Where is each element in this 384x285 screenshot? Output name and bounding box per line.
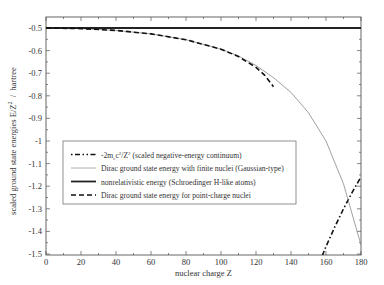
x-tick-label: 20	[77, 257, 86, 267]
y-tick-label: -1.2	[29, 181, 42, 191]
x-tick-label: 140	[285, 257, 298, 267]
series-continuum	[321, 177, 361, 260]
y-axis-label: scaled ground state energies E/Z2 / hart…	[7, 67, 18, 215]
x-tick-label: 180	[355, 257, 368, 267]
y-tick-label: -1.5	[29, 249, 42, 259]
x-tick-label: 120	[250, 257, 263, 267]
y-tick-label: -1.3	[29, 204, 42, 214]
y-tick-label: -1	[35, 136, 42, 146]
x-tick-label: 80	[182, 257, 191, 267]
series-finite-nuclei	[46, 28, 361, 245]
energy-chart: 020406080100120140160180 -0.5-0.6-0.7-0.…	[0, 0, 384, 285]
y-tick-label: -0.7	[29, 68, 42, 78]
x-tick-label: 160	[320, 257, 333, 267]
y-tick-label: -0.9	[29, 113, 42, 123]
x-tick-label: 100	[215, 257, 228, 267]
y-tick-label: -1.4	[29, 226, 43, 236]
legend-label-nonrel: nonrelativistic energy (Schroedinger H-l…	[101, 178, 256, 187]
series-point-charge	[46, 28, 274, 87]
legend-label-continuum: -2mec2/Z2 (scaled negative-energy contin…	[101, 151, 242, 161]
x-tick-label: 40	[112, 257, 121, 267]
y-tick-label: -0.6	[29, 46, 42, 56]
legend: -2mec2/Z2 (scaled negative-energy contin…	[63, 141, 296, 204]
x-tick-label: 0	[44, 257, 48, 267]
y-tick-label: -0.5	[29, 23, 42, 33]
plot-frame	[46, 17, 361, 255]
legend-label-point: Dirac ground state energy for point-char…	[101, 191, 251, 200]
x-axis-label: nuclear charge Z	[175, 268, 232, 278]
y-tick-label: -0.8	[29, 91, 42, 101]
plot-area-border	[46, 17, 361, 255]
x-tick-label: 60	[147, 257, 156, 267]
legend-label-finite: Dirac ground state energy with finite nu…	[101, 164, 284, 173]
y-tick-label: -1.1	[29, 159, 42, 169]
